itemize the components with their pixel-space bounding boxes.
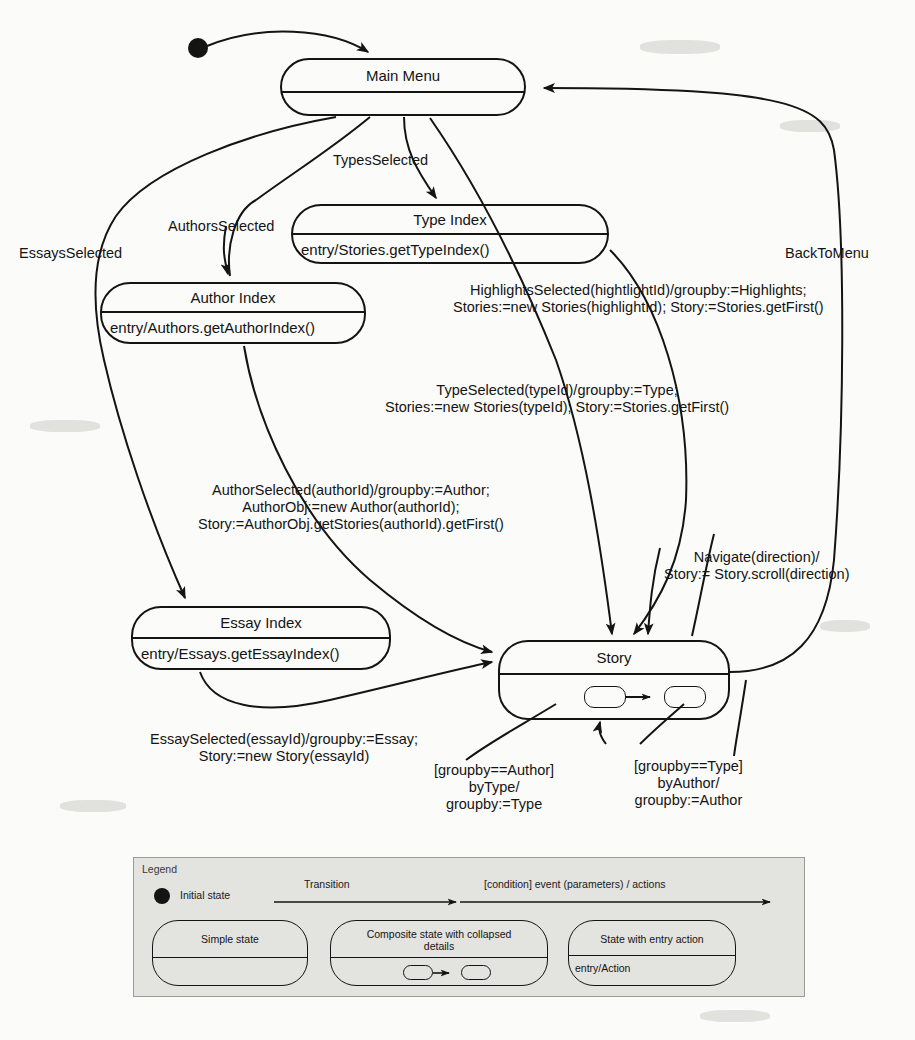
edge-label-essay-selected: EssaySelected(essayId)/groupby:=Essay; S… — [150, 731, 418, 765]
legend-initial-state-icon — [152, 886, 178, 906]
legend-collapsed-substate-arrow-icon — [433, 967, 461, 979]
state-essay-index-name: Essay Index — [133, 608, 389, 630]
edge-label-highlights-selected-line-1: HighlightsSelected(hightlightId)/groupby… — [453, 282, 824, 299]
edge-label-essay-selected-line-1: EssaySelected(essayId)/groupby:=Essay; — [150, 731, 418, 748]
state-author-index[interactable]: Author Index entry/Authors.getAuthorInde… — [100, 282, 366, 344]
legend-collapsed-substate-left-icon — [403, 965, 433, 980]
state-essay-index-entry: entry/Essays.getEssayIndex() — [133, 639, 389, 661]
state-story[interactable]: Story — [498, 640, 730, 720]
legend-transition-label: Transition — [304, 878, 350, 891]
state-type-index-entry: entry/Stories.getTypeIndex() — [293, 235, 607, 257]
state-essay-index[interactable]: Essay Index entry/Essays.getEssayIndex() — [131, 606, 391, 670]
edge-label-author-selected-line-1: AuthorSelected(authorId)/groupby:=Author… — [198, 482, 504, 499]
edge-label-type-selected-line-2: Stories:=new Stories(typeId); Story:=Sto… — [385, 399, 729, 416]
legend-composite-state-label-line-2: details — [331, 940, 547, 952]
edge-label-bytype-line-2: byType/ — [434, 779, 554, 796]
edge-navigate-head — [648, 548, 660, 634]
legend-entry-state: State with entry action entry/Action — [568, 920, 736, 986]
edge-label-type-selected: TypeSelected(typeId)/groupby:=Type; Stor… — [385, 382, 729, 416]
legend-transition-arrow-icon — [274, 896, 470, 908]
state-main-menu-name: Main Menu — [282, 60, 524, 83]
legend-composite-state: Composite state with collapsed details — [330, 920, 548, 986]
state-story-divider — [500, 673, 728, 675]
state-author-index-name: Author Index — [102, 284, 364, 305]
legend-simple-state-label: Simple state — [153, 921, 307, 945]
legend-simple-state: Simple state — [152, 920, 308, 986]
collapsed-substate-left-icon — [584, 686, 626, 708]
edge-byauthor-tail2 — [734, 680, 746, 756]
edge-label-author-selected-line-3: Story:=AuthorObj.getStories(authorId).ge… — [198, 516, 504, 533]
legend-transition-syntax-label: [condition] event (parameters) / actions — [484, 878, 666, 891]
state-type-index[interactable]: Type Index entry/Stories.getTypeIndex() — [291, 204, 609, 264]
collapsed-substate-right-icon — [664, 686, 706, 708]
edge-label-author-selected: AuthorSelected(authorId)/groupby:=Author… — [198, 482, 504, 533]
legend-collapsed-substate-right-icon — [461, 965, 491, 980]
legend-panel: Legend Initial state Transition [conditi… — [133, 857, 805, 997]
edge-label-author-selected-line-2: AuthorObj:=new Author(authorId); — [198, 499, 504, 516]
edge-label-bytype-line-1: [groupby==Author] — [434, 762, 554, 779]
edge-label-navigate-line-2: Story:= Story.scroll(direction) — [664, 566, 849, 583]
initial-state-marker — [188, 38, 208, 58]
edge-label-bytype-line-3: groupby:=Type — [434, 796, 554, 813]
state-story-name: Story — [500, 642, 728, 665]
edge-label-essays-selected: EssaysSelected — [19, 245, 122, 262]
edge-initial-to-main-menu — [207, 32, 368, 52]
edge-label-byauthor-line-3: groupby:=Author — [634, 792, 743, 809]
edge-label-navigate-line-1: Navigate(direction)/ — [664, 549, 849, 566]
edge-label-authors-selected: AuthorsSelected — [168, 218, 274, 235]
state-main-menu-divider — [282, 91, 524, 93]
legend-entry-state-label: State with entry action — [569, 921, 735, 945]
legend-entry-state-action: entry/Action — [569, 956, 735, 975]
edge-label-essay-selected-line-2: Story:=new Story(essayId) — [150, 748, 418, 765]
edge-highlights-selected — [430, 118, 612, 634]
edge-bytype-head — [599, 722, 606, 744]
state-main-menu[interactable]: Main Menu — [280, 58, 526, 116]
edge-label-highlights-selected-line-2: Stories:=new Stories(highlightId); Story… — [453, 299, 824, 316]
state-type-index-name: Type Index — [293, 206, 607, 227]
edge-back-to-menu — [544, 88, 842, 672]
edge-label-navigate: Navigate(direction)/ Story:= Story.scrol… — [664, 549, 849, 583]
state-author-index-entry: entry/Authors.getAuthorIndex() — [102, 313, 364, 335]
edge-label-type-selected-line-1: TypeSelected(typeId)/groupby:=Type; — [385, 382, 729, 399]
edge-label-bytype: [groupby==Author] byType/ groupby:=Type — [434, 762, 554, 813]
edge-label-types-selected: TypesSelected — [333, 152, 428, 169]
legend-composite-state-label-line-1: Composite state with collapsed — [331, 928, 547, 940]
edge-label-byauthor-line-1: [groupby==Type] — [634, 758, 743, 775]
edge-label-highlights-selected: HighlightsSelected(hightlightId)/groupby… — [453, 282, 824, 316]
edge-label-byauthor-line-2: byAuthor/ — [634, 775, 743, 792]
legend-initial-state-label: Initial state — [180, 889, 230, 902]
legend-transition-syntax-arrow-icon — [460, 896, 784, 908]
legend-simple-state-divider — [153, 957, 307, 958]
legend-composite-state-label: Composite state with collapsed details — [331, 921, 547, 953]
statechart-page: Main Menu Type Index entry/Stories.getTy… — [0, 0, 915, 1040]
edge-label-byauthor: [groupby==Type] byAuthor/ groupby:=Autho… — [634, 758, 743, 809]
legend-composite-state-divider — [331, 957, 547, 958]
collapsed-substate-arrow-icon — [626, 689, 664, 705]
legend-title: Legend — [142, 863, 177, 875]
edge-label-back-to-menu: BackToMenu — [785, 245, 869, 262]
